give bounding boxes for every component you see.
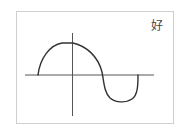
chinese-character-label: 好	[151, 19, 163, 33]
wave-curve	[38, 43, 138, 102]
